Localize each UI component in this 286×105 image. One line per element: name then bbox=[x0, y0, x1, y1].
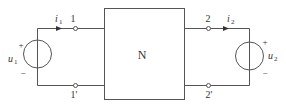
network-label: N bbox=[138, 48, 147, 62]
source2-plus: + bbox=[262, 37, 267, 47]
current-i1-subscript: 1 bbox=[59, 18, 63, 26]
voltage-u2-subscript: 2 bbox=[274, 55, 278, 63]
source1-minus: − bbox=[20, 68, 25, 78]
port1-top-wire bbox=[38, 29, 105, 41]
voltage-u1-subscript: 1 bbox=[14, 58, 18, 66]
terminal-1-prime-label: 1' bbox=[71, 89, 78, 100]
source1-plus: + bbox=[18, 40, 23, 50]
source2-minus: − bbox=[262, 68, 267, 78]
port1-bottom-wire bbox=[38, 68, 105, 86]
terminal-1-prime bbox=[74, 84, 78, 88]
current-i2-symbol: i bbox=[227, 13, 230, 24]
voltage-u2-symbol: u bbox=[268, 50, 273, 61]
terminal-1-label: 1 bbox=[71, 13, 76, 24]
terminal-2-prime bbox=[207, 84, 211, 88]
terminal-2-prime-label: 2' bbox=[206, 89, 213, 100]
voltage-u1-symbol: u bbox=[8, 53, 13, 64]
terminal-1 bbox=[74, 27, 78, 31]
port2-top-wire bbox=[185, 29, 250, 43]
terminal-2 bbox=[207, 27, 211, 31]
current-i2-subscript: 2 bbox=[231, 18, 235, 26]
terminal-2-label: 2 bbox=[206, 13, 211, 24]
current-arrow-1-icon bbox=[56, 26, 62, 31]
circuit-diagram: N 1 1' 2 2' i 1 i 2 + u 1 − + u 2 − bbox=[0, 0, 286, 105]
current-arrow-2-icon bbox=[223, 26, 229, 31]
port2-bottom-wire bbox=[185, 70, 250, 86]
current-i1-symbol: i bbox=[55, 13, 58, 24]
